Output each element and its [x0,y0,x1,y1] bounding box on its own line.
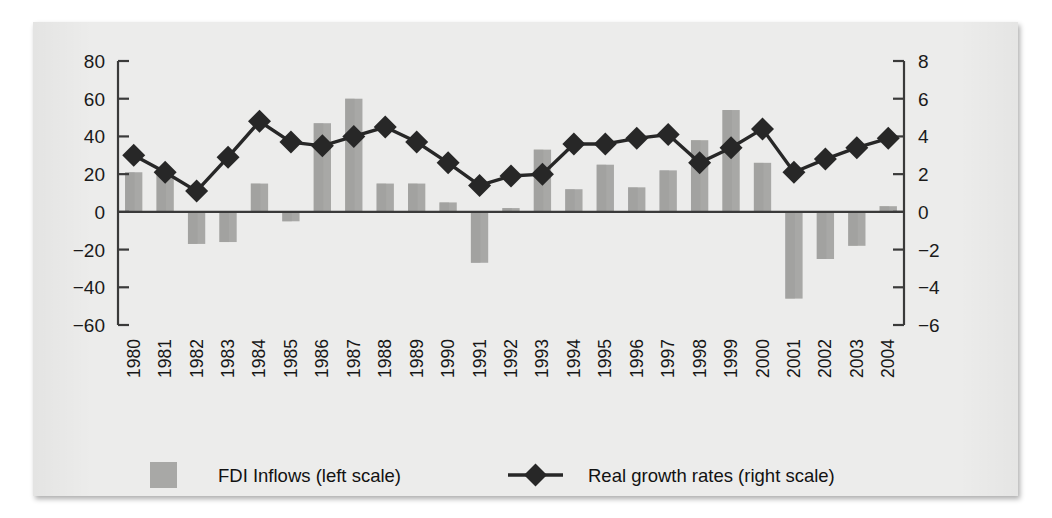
data-marker-1996 [625,127,648,150]
right-axis-tick-label-7: −6 [918,315,940,336]
right-axis-tick-label-6: −4 [918,277,940,298]
x-axis-label-2002: 2002 [815,339,835,378]
x-axis-label-1997: 1997 [658,339,678,378]
bar-shading-1984 [251,184,261,212]
x-axis-label-1991: 1991 [470,339,490,378]
legend-label-real-growth-rates: Real growth rates (right scale) [588,465,835,486]
data-marker-2002 [814,148,837,171]
x-axis-label-2000: 2000 [753,339,773,378]
data-marker-2003 [845,136,868,159]
bar-shading-1996 [628,187,638,212]
left-axis-tick-label-5: −20 [73,240,105,261]
left-axis-tick-label-6: −40 [73,277,105,298]
data-marker-1990 [437,151,460,174]
bar-shading-1997 [660,170,670,211]
bar-shading-1990 [439,202,449,211]
right-axis-tick-label-4: 0 [918,202,929,223]
legend-marker-diamond [524,464,547,487]
bar-shading-1983 [219,212,229,242]
bar-shading-2001 [785,212,795,299]
chart-plot-area: 806040200−20−40−6086420−2−4−619801981198… [0,0,1052,518]
x-axis-label-1981: 1981 [155,339,175,378]
bar-shading-2000 [754,163,764,212]
data-marker-2000 [751,117,774,140]
data-marker-1988 [374,116,397,139]
bar-shading-1980 [125,172,135,212]
right-axis-tick-label-5: −2 [918,240,940,261]
left-axis-tick-label-1: 60 [84,89,105,110]
data-marker-1989 [405,131,428,154]
bar-shading-1985 [282,212,292,221]
x-axis-label-1993: 1993 [532,339,552,378]
bar-shading-1999 [722,110,732,212]
x-axis-label-1989: 1989 [407,339,427,378]
x-axis-label-2003: 2003 [847,339,867,378]
bar-shading-1982 [188,212,198,244]
left-axis-tick-label-7: −60 [73,315,105,336]
x-axis-label-1984: 1984 [249,339,269,378]
left-axis-tick-label-2: 40 [84,126,105,147]
x-axis-label-1985: 1985 [281,339,301,378]
right-axis-tick-label-3: 2 [918,164,929,185]
bar-shading-1994 [565,189,575,212]
bar-shading-1991 [471,212,481,263]
data-marker-1985 [279,131,302,154]
x-axis-label-1996: 1996 [627,339,647,378]
right-axis-tick-label-0: 8 [918,51,929,72]
data-marker-2001 [782,161,805,184]
left-axis-tick-label-4: 0 [94,202,105,223]
bar-shading-1988 [377,184,387,212]
bar-shading-1995 [597,165,607,212]
x-axis-label-1987: 1987 [344,339,364,378]
left-axis-tick-label-0: 80 [84,51,105,72]
x-axis-label-1983: 1983 [218,339,238,378]
x-axis-label-2004: 2004 [878,339,898,378]
left-axis-tick-label-3: 20 [84,164,105,185]
x-axis-label-1995: 1995 [595,339,615,378]
right-axis-tick-label-2: 4 [918,126,929,147]
bar-shading-1998 [691,140,701,212]
x-axis-label-1999: 1999 [721,339,741,378]
legend-swatch-bars [150,462,177,488]
data-marker-1991 [468,174,491,197]
x-axis-label-1994: 1994 [564,339,584,378]
data-marker-1980 [122,144,145,167]
x-axis-label-2001: 2001 [784,339,804,378]
data-marker-1995 [594,132,617,155]
x-axis-label-1998: 1998 [690,339,710,378]
data-marker-1992 [500,165,523,188]
x-axis-label-1986: 1986 [312,339,332,378]
bar-shading-1987 [345,99,355,212]
x-axis-label-1990: 1990 [438,339,458,378]
x-axis-label-1992: 1992 [501,339,521,378]
data-marker-2004 [877,127,900,150]
bar-shading-2002 [817,212,827,259]
figure-root: 806040200−20−40−6086420−2−4−619801981198… [0,0,1052,518]
bar-shading-2003 [848,212,858,246]
right-axis-tick-label-1: 6 [918,89,929,110]
x-axis-label-1980: 1980 [124,339,144,378]
legend-label-fdi-inflows: FDI Inflows (left scale) [218,465,401,486]
bar-shading-1989 [408,184,418,212]
x-axis-label-1982: 1982 [187,339,207,378]
dual-axis-chart: 806040200−20−40−6086420−2−4−619801981198… [0,0,1052,518]
x-axis-label-1988: 1988 [375,339,395,378]
